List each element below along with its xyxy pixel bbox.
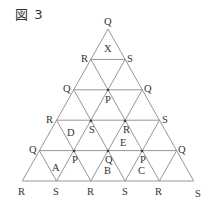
vertex-label-q: Q bbox=[105, 154, 113, 165]
diagonal-edge bbox=[108, 29, 194, 181]
vertex-label-s: S bbox=[122, 186, 128, 197]
vertex-label-q: Q bbox=[29, 144, 37, 155]
triangle-grid-diagram: QRSQPQRSRSQPQPQRSRSRS XDEABC bbox=[0, 0, 210, 206]
vertex-label-q: Q bbox=[104, 16, 112, 27]
vertex-label-q: Q bbox=[63, 83, 71, 94]
vertex-dot bbox=[141, 150, 144, 153]
region-label-d: D bbox=[67, 127, 75, 138]
vertex-label-p: P bbox=[140, 154, 146, 165]
vertex-label-s: S bbox=[89, 124, 95, 135]
diagonal-edge bbox=[22, 29, 108, 181]
vertex-dot bbox=[107, 89, 110, 92]
vertex-label-p: P bbox=[105, 94, 111, 105]
region-label-c: C bbox=[138, 165, 145, 176]
vertex-label-p: P bbox=[72, 154, 78, 165]
vertex-label-s: S bbox=[195, 188, 201, 199]
vertex-label-r: R bbox=[18, 186, 25, 197]
vertex-dot bbox=[124, 120, 127, 123]
region-label-e: E bbox=[120, 137, 126, 148]
vertex-label-r: R bbox=[155, 186, 162, 197]
vertex-label-r: R bbox=[46, 114, 53, 125]
region-label-x: X bbox=[104, 43, 112, 54]
region-label-b: B bbox=[104, 165, 111, 176]
vertex-label-r: R bbox=[81, 53, 88, 64]
vertex-dot bbox=[73, 150, 76, 153]
vertex-label-r: R bbox=[87, 186, 94, 197]
diagonal-edge bbox=[74, 90, 125, 181]
vertex-label-s: S bbox=[127, 53, 133, 64]
vertex-label-s: S bbox=[162, 114, 168, 125]
vertex-label-q: Q bbox=[178, 144, 186, 155]
vertex-dot bbox=[107, 150, 110, 153]
region-label-a: A bbox=[52, 162, 60, 173]
vertex-label-s: S bbox=[53, 186, 59, 197]
vertex-dot bbox=[90, 120, 93, 123]
diagonal-edge bbox=[159, 151, 176, 181]
vertex-label-r: R bbox=[123, 124, 130, 135]
vertex-label-q: Q bbox=[144, 83, 152, 94]
diagonal-edge bbox=[91, 90, 142, 181]
